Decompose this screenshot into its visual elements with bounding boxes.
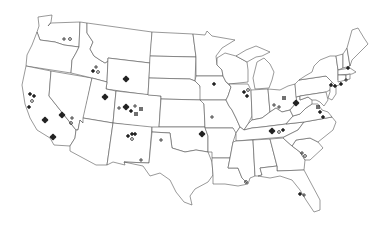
dot-marker-icon xyxy=(28,106,31,109)
dot-marker-icon xyxy=(347,67,350,70)
dot-marker-icon xyxy=(319,111,322,114)
dot-marker-icon xyxy=(130,110,133,113)
dot-marker-icon xyxy=(334,85,337,88)
dot-marker-icon xyxy=(134,133,137,136)
state-borders xyxy=(22,15,368,212)
dot-marker-icon xyxy=(243,91,246,94)
state-north-dakota xyxy=(150,32,196,57)
state-new-mexico xyxy=(107,123,152,165)
us-map xyxy=(0,0,387,231)
dot-marker-icon xyxy=(246,95,249,98)
state-montana xyxy=(87,23,152,63)
dot-marker-icon xyxy=(213,83,216,86)
state-kansas xyxy=(159,99,205,127)
state-rhode-island xyxy=(346,74,350,80)
dot-marker-icon xyxy=(92,70,95,73)
dot-marker-icon xyxy=(330,84,333,87)
dot-marker-icon xyxy=(29,93,32,96)
dot-marker-icon xyxy=(127,135,130,138)
dot-marker-icon xyxy=(282,129,285,132)
state-south-dakota xyxy=(149,56,196,81)
state-florida xyxy=(258,166,320,212)
dot-marker-icon xyxy=(322,116,325,119)
state-wyoming xyxy=(106,58,150,95)
state-connecticut xyxy=(338,75,346,82)
dot-marker-icon xyxy=(33,95,36,98)
state-colorado xyxy=(113,91,161,129)
dot-marker-icon xyxy=(299,193,302,196)
dot-marker-icon xyxy=(340,83,343,86)
state-maine xyxy=(347,28,368,66)
dot-marker-icon xyxy=(131,133,134,136)
